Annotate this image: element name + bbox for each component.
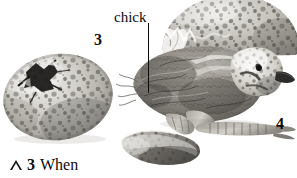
chick-eye	[256, 65, 262, 71]
figure-photograph: chick 3 4 3 When	[0, 0, 297, 178]
figure-number-3: 3	[94, 32, 102, 48]
chick-leader-line	[148, 23, 149, 93]
caption: 3 When	[10, 154, 78, 176]
chick-annotation-label: chick	[114, 10, 146, 25]
eggshell-fragment	[115, 125, 210, 173]
triangle-outline-icon	[10, 160, 22, 170]
figure-number-4: 4	[276, 116, 284, 132]
caption-number: 3	[27, 156, 35, 174]
caption-text: When	[40, 156, 78, 174]
